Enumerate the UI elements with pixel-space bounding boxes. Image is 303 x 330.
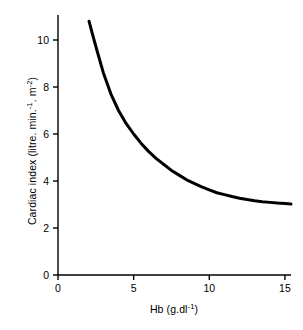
axes-group <box>58 15 291 275</box>
y-axis-title: Cardiac index (litre. min.-1. m-2) <box>26 58 38 244</box>
x-axis-title-tail: ) <box>194 303 198 315</box>
y-tick-label: 2 <box>43 222 49 234</box>
y-tick-labels: 0246810 <box>37 34 49 281</box>
x-tick-label: 10 <box>203 282 215 294</box>
y-tick-label: 6 <box>43 128 49 140</box>
x-axis-title-base: Hb (g.dl <box>150 303 188 315</box>
y-tick-label: 10 <box>37 34 49 46</box>
x-tick-label: 5 <box>131 282 137 294</box>
y-axis-title-sup2: -2 <box>25 81 34 88</box>
y-axis-title-tail: ) <box>26 77 38 81</box>
x-tick-label: 0 <box>55 282 61 294</box>
y-tick-label: 0 <box>43 269 49 281</box>
y-tick-label: 4 <box>43 175 49 187</box>
x-tick-marks <box>58 275 285 280</box>
cardiac-index-curve <box>89 21 291 204</box>
x-tick-labels: 051015 <box>55 282 291 294</box>
y-axis-title-sup1: -1 <box>25 102 34 109</box>
y-tick-marks <box>53 40 58 275</box>
cardiac-index-line-chart: 0246810 051015 <box>0 0 303 330</box>
y-axis-title-mid: . m <box>26 87 38 102</box>
chart-figure: 0246810 051015 Cardiac index (litre. min… <box>0 0 303 330</box>
y-tick-label: 8 <box>43 81 49 93</box>
x-tick-label: 15 <box>279 282 291 294</box>
y-axis-title-base: Cardiac index (litre. min. <box>26 109 38 225</box>
x-axis-title: Hb (g.dl-1) <box>58 303 290 315</box>
